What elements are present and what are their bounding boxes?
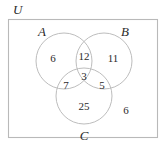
set-label-b: B [121,24,129,39]
region-value-a-and-c: 7 [63,79,69,91]
universe-label: U [13,2,24,17]
region-value-a-and-b: 12 [79,50,90,62]
region-value-a-and-b-and-c: 3 [81,70,87,82]
set-label-c: C [80,128,89,143]
region-value-outside-all: 6 [123,104,129,116]
set-label-a: A [37,24,46,39]
region-value-a-only: 6 [50,52,56,64]
region-value-b-and-c: 5 [99,79,105,91]
venn-diagram-figure: U A B C 6 12 11 3 7 5 25 6 [0,0,167,147]
region-value-c-only: 25 [79,100,91,112]
venn-diagram-canvas: U A B C 6 12 11 3 7 5 25 6 [0,0,167,147]
region-value-b-only: 11 [108,52,119,64]
